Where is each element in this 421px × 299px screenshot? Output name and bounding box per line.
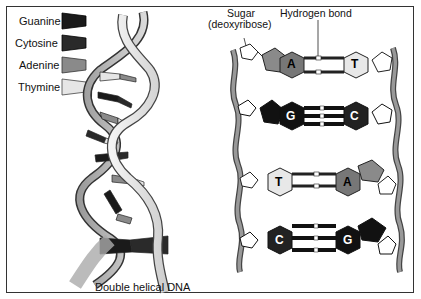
base-letter: G — [286, 111, 295, 122]
base-letter: C — [350, 111, 359, 122]
dna-diagram — [0, 0, 421, 299]
base-letter: A — [287, 59, 296, 70]
base-letter: C — [275, 235, 284, 246]
hydrogen-bond-label: Hydrogen bond — [280, 8, 352, 19]
sugar-leader-line — [244, 38, 246, 46]
legend-label-adenine: Adenine — [19, 60, 59, 71]
legend-label-cytosine: Cytosine — [15, 38, 58, 49]
base-pair-t-a — [240, 160, 396, 196]
base-letter: G — [343, 235, 352, 246]
base-letter: T — [275, 177, 282, 188]
double-helix — [75, 12, 168, 292]
base-pair-g-c — [238, 100, 392, 130]
legend-label-guanine: Guanine — [19, 16, 61, 27]
deoxyribose-label: (deoxyribose) — [208, 19, 272, 30]
legend-label-thymine: Thymine — [18, 82, 60, 93]
double-helix-caption: Double helical DNA — [95, 282, 190, 293]
base-letter: T — [351, 59, 358, 70]
base-pair-a-t — [240, 44, 392, 78]
legend-swatches — [62, 13, 86, 95]
base-pair-c-g — [240, 218, 396, 254]
base-letter: A — [343, 177, 352, 188]
